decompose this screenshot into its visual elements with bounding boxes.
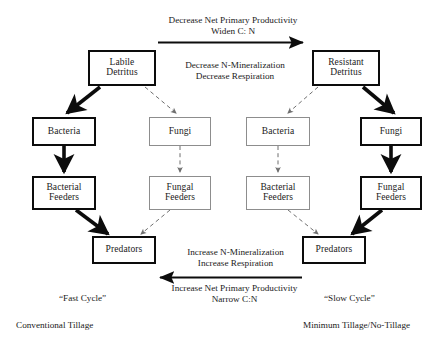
node-bacterial-feeders-right[interactable]: BacterialFeeders	[246, 176, 310, 210]
node-label-line2: Feeders	[258, 193, 297, 203]
node-bacterial-feeders-left[interactable]: BacterialFeeders	[32, 176, 96, 210]
edge-resistant-to-bacteria	[288, 87, 318, 113]
node-fungal-feeders-left[interactable]: FungalFeeders	[149, 176, 211, 210]
node-bacterial-feeders-right-label: BacterialFeeders	[256, 183, 299, 203]
label-bottom-process: Increase Net Primary Productivity Narrow…	[152, 283, 317, 305]
edge-labile-to-bacteria	[67, 87, 100, 113]
label-bottom-mineralization: Increase N-Mineralization Increase Respi…	[163, 247, 308, 269]
node-fungi-right[interactable]: Fungi	[360, 117, 422, 146]
edge-fungal-feeders-to-predators-left	[141, 210, 170, 234]
node-predators-right[interactable]: Predators	[302, 236, 366, 264]
label-slow-cycle: “Slow Cycle”	[324, 293, 375, 303]
label-top-process-line1: Decrease Net Primary Productivity	[153, 15, 313, 26]
label-fast-cycle: “Fast Cycle”	[59, 293, 106, 303]
node-fungi-left-label: Fungi	[167, 127, 194, 137]
label-bottom-process-line2: Narrow C:N	[152, 294, 317, 305]
edge-resistant-to-fungi	[363, 87, 394, 113]
node-labile-detritus-label: LabileDetritus	[102, 58, 141, 78]
edge-bacterial-feeders-to-predators-right	[288, 210, 318, 234]
edge-bacterial-feeders-to-predators-left	[76, 210, 108, 234]
food-web-diagram: LabileDetritus ResistantDetritus Bacteri…	[0, 0, 447, 351]
label-bottom-mineralization-line1: Increase N-Mineralization	[163, 247, 308, 258]
label-bottom-process-line1: Increase Net Primary Productivity	[152, 283, 317, 294]
node-label-line2: Detritus	[104, 68, 139, 78]
label-top-process: Decrease Net Primary Productivity Widen …	[153, 15, 313, 37]
node-predators-right-label: Predators	[314, 245, 355, 255]
node-resistant-detritus-label: ResistantDetritus	[324, 58, 368, 78]
node-fungi-right-label: Fungi	[378, 127, 405, 137]
node-bacteria-right-label: Bacteria	[260, 127, 296, 137]
node-bacterial-feeders-left-label: BacterialFeeders	[42, 183, 85, 203]
node-predators-left-label: Predators	[104, 245, 145, 255]
label-middle-process: Decrease N-Mineralization Decrease Respi…	[160, 60, 310, 82]
node-fungi-left[interactable]: Fungi	[149, 117, 211, 146]
label-middle-process-line1: Decrease N-Mineralization	[160, 60, 310, 71]
node-labile-detritus[interactable]: LabileDetritus	[88, 50, 156, 86]
node-resistant-detritus[interactable]: ResistantDetritus	[312, 50, 380, 86]
node-fungal-feeders-right[interactable]: FungalFeeders	[360, 176, 422, 210]
node-bacteria-right[interactable]: Bacteria	[246, 117, 310, 146]
edge-fungal-feeders-to-predators-right	[352, 210, 382, 234]
node-bacteria-left[interactable]: Bacteria	[32, 117, 96, 146]
node-predators-left[interactable]: Predators	[92, 236, 156, 264]
node-bacteria-left-label: Bacteria	[46, 127, 82, 137]
node-fungal-feeders-right-label: FungalFeeders	[372, 183, 410, 203]
node-label-line2: Feeders	[374, 193, 408, 203]
label-bottom-mineralization-line2: Increase Respiration	[163, 258, 308, 269]
node-label-line2: Feeders	[44, 193, 83, 203]
node-label-line2: Feeders	[163, 193, 197, 203]
label-minimum-tillage: Minimum Tillage/No-Tillage	[303, 320, 410, 330]
label-conventional-tillage: Conventional Tillage	[16, 320, 93, 330]
node-fungal-feeders-left-label: FungalFeeders	[161, 183, 199, 203]
node-label-line2: Detritus	[326, 68, 366, 78]
label-middle-process-line2: Decrease Respiration	[160, 71, 310, 82]
label-top-process-line2: Widen C: N	[153, 26, 313, 37]
edge-labile-to-fungi	[145, 87, 176, 113]
